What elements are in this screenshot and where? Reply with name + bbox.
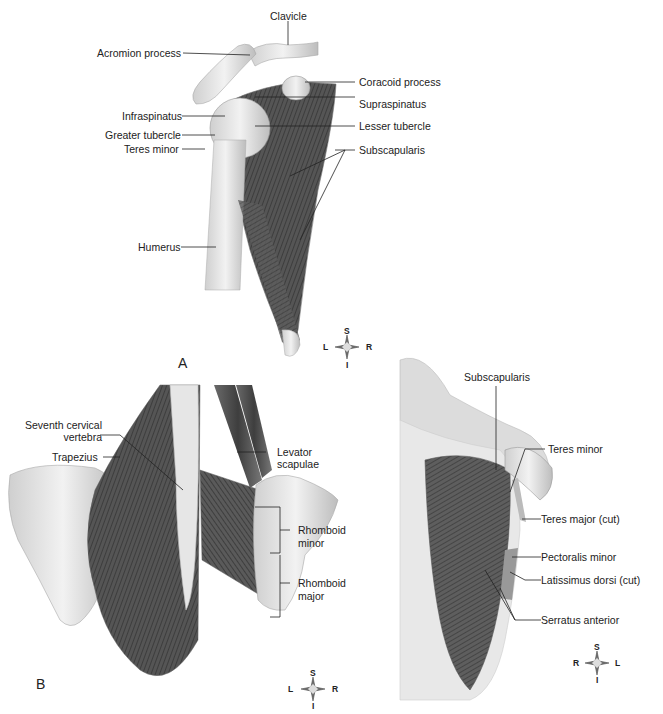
label-levator-line1: Levator	[277, 446, 312, 458]
compass-c-superior: S	[594, 642, 600, 652]
label-coracoid-process: Coracoid process	[359, 76, 441, 88]
label-serratus-anterior: Serratus anterior	[541, 614, 619, 626]
label-subscapularis-a: Subscapularis	[359, 144, 425, 156]
label-infraspinatus: Infraspinatus	[122, 110, 182, 122]
illustration-artwork	[0, 0, 663, 714]
panel-letter-b: B	[36, 676, 45, 692]
label-acromion-process: Acromion process	[97, 47, 181, 59]
label-lesser-tubercle: Lesser tubercle	[359, 120, 431, 132]
compass-c-left-side: R	[573, 658, 579, 668]
compass-a-right: R	[366, 342, 372, 352]
label-supraspinatus: Supraspinatus	[359, 98, 426, 110]
compass-c	[585, 651, 609, 675]
compass-a	[335, 335, 359, 359]
compass-a-superior: S	[344, 326, 350, 336]
label-pectoralis-minor: Pectoralis minor	[541, 551, 616, 563]
compass-b	[301, 677, 325, 701]
panel-c-art	[400, 358, 553, 700]
label-rhomboid-major-line2: major	[298, 590, 324, 602]
label-rhomboid-minor-line2: minor	[298, 537, 324, 549]
compass-c-inferior: I	[596, 675, 598, 685]
label-teres-minor-c: Teres minor	[548, 443, 603, 455]
compass-a-inferior: I	[346, 360, 348, 370]
compass-b-right: R	[332, 684, 338, 694]
label-trapezius: Trapezius	[52, 451, 98, 463]
compass-b-superior: S	[310, 668, 316, 678]
label-rhomboid-minor-line1: Rhomboid	[298, 524, 346, 536]
label-seventh-cervical-line2: vertebra	[22, 431, 102, 443]
compass-b-left: L	[288, 684, 293, 694]
compass-c-right-side: L	[615, 658, 620, 668]
compass-b-inferior: I	[312, 701, 314, 711]
label-teres-major-cut: Teres major (cut)	[541, 513, 620, 525]
label-clavicle: Clavicle	[270, 10, 307, 22]
label-levator-line2: scapulae	[277, 458, 319, 470]
label-teres-minor-a: Teres minor	[124, 143, 179, 155]
panel-a-art	[193, 42, 336, 356]
label-subscapularis-c: Subscapularis	[464, 371, 530, 383]
label-latissimus-dorsi-cut: Latissimus dorsi (cut)	[541, 574, 640, 586]
anatomy-figure: Clavicle Acromion process Coracoid proce…	[0, 0, 663, 714]
label-seventh-cervical-line1: Seventh cervical	[22, 419, 102, 431]
compass-a-left: L	[323, 342, 328, 352]
label-greater-tubercle: Greater tubercle	[105, 129, 181, 141]
panel-letter-a: A	[178, 355, 187, 371]
label-humerus: Humerus	[138, 241, 181, 253]
label-rhomboid-major-line1: Rhomboid	[298, 577, 346, 589]
